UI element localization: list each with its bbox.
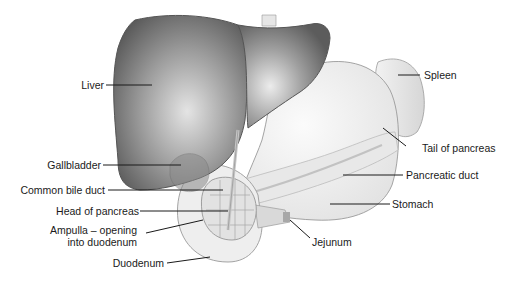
label-pancreatic-duct: Pancreatic duct <box>406 169 478 181</box>
label-spleen: Spleen <box>424 69 457 81</box>
label-tail-of-pancreas: Tail of pancreas <box>422 142 496 154</box>
label-head-of-pancreas: Head of pancreas <box>56 205 139 217</box>
label-ampulla-line1: Ampulla – opening <box>50 224 137 236</box>
label-common-bile-duct: Common bile duct <box>20 184 105 196</box>
label-ampulla-line2: into duodenum <box>68 236 137 248</box>
label-gallbladder: Gallbladder <box>47 159 101 171</box>
anatomy-diagram: Liver Gallbladder Common bile duct Head … <box>0 0 509 283</box>
label-stomach: Stomach <box>392 198 433 210</box>
label-duodenum: Duodenum <box>113 257 164 269</box>
label-liver: Liver <box>81 79 104 91</box>
gallbladder <box>170 154 209 192</box>
label-jejunum: Jejunum <box>312 236 352 248</box>
